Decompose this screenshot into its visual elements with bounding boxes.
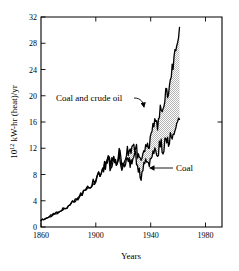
- svg-text:1012 kW-hr (heat)/yr: 1012 kW-hr (heat)/yr: [9, 85, 19, 158]
- annotation-arrow-coal-and-crude-oil: [134, 98, 144, 107]
- y-tick-label-4: 4: [33, 197, 37, 206]
- y-tick-label-12: 12: [29, 144, 37, 153]
- x-axis-ticks: [41, 17, 206, 227]
- y-tick-label-8: 8: [33, 171, 37, 180]
- energy-production-chart: 0 4 8 12 16 20 24 28 32 1860 1900 1940 1…: [0, 0, 239, 271]
- y-tick-label-28: 28: [29, 39, 37, 48]
- y-axis-title: 1012 kW-hr (heat)/yr: [9, 85, 19, 158]
- x-tick-label-1900: 1900: [88, 231, 104, 240]
- y-axis-ticks: [41, 17, 222, 227]
- annotation-coal: Coal: [150, 163, 193, 173]
- y-tick-label-16: 16: [29, 118, 37, 127]
- x-axis-tick-labels: 1860 1900 1940 1980: [33, 231, 214, 240]
- plot-frame: [41, 17, 222, 227]
- y-tick-label-24: 24: [29, 66, 37, 75]
- annotation-coal-and-crude-oil: Coal and crude oil: [56, 93, 144, 107]
- x-axis-title-text: Years: [121, 251, 142, 261]
- y-axis-tick-labels: 0 4 8 12 16 20 24 28 32: [29, 13, 37, 232]
- x-axis-title: Years: [121, 251, 142, 261]
- annotation-label-coal: Coal: [176, 163, 193, 173]
- y-tick-label-20: 20: [29, 92, 37, 101]
- annotation-label-coal-and-crude-oil: Coal and crude oil: [56, 93, 123, 103]
- x-tick-label-1980: 1980: [198, 231, 214, 240]
- figure-container: 0 4 8 12 16 20 24 28 32 1860 1900 1940 1…: [0, 0, 239, 271]
- y-tick-label-32: 32: [29, 13, 37, 22]
- x-tick-label-1860: 1860: [33, 231, 49, 240]
- x-tick-label-1940: 1940: [143, 231, 159, 240]
- y-axis-title-rest: kW-hr (heat)/yr: [9, 85, 19, 143]
- area-fill-between-series: [41, 28, 179, 222]
